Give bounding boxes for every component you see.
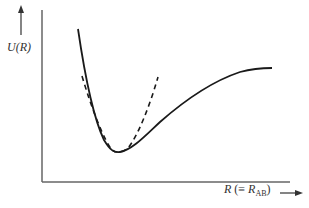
x-close: ) <box>267 182 271 196</box>
potential-energy-diagram <box>0 0 309 208</box>
potential-curve <box>78 29 272 152</box>
harmonic-approximation-curve <box>82 76 158 152</box>
y-arrow-head-icon <box>18 5 24 13</box>
x-equiv: (≡ <box>231 182 248 196</box>
y-axis-label: U(R) <box>7 40 31 55</box>
x-arrow-head-icon <box>295 190 303 196</box>
x-axis-label: R (≡ RAB) <box>224 182 271 198</box>
x-subscript: AB <box>255 189 266 198</box>
